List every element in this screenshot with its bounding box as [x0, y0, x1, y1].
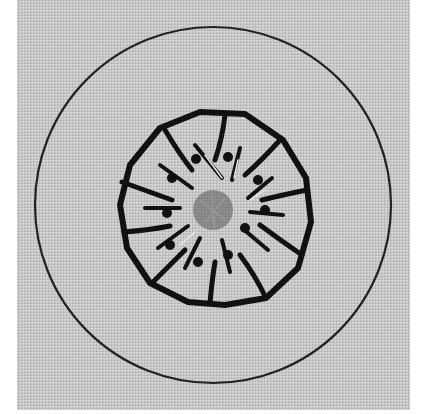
embroidery-artwork [0, 0, 425, 414]
center-knot [193, 190, 233, 230]
